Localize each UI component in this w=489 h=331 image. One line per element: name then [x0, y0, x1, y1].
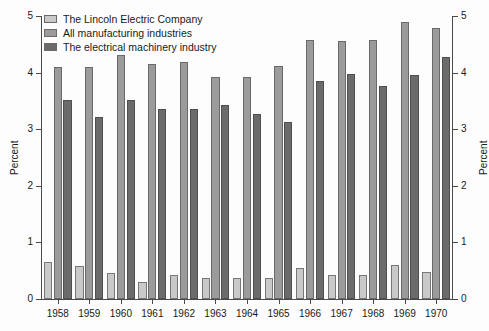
- bar[interactable]: [253, 114, 261, 299]
- bar[interactable]: [170, 275, 178, 299]
- legend-item[interactable]: The electrical machinery industry: [44, 41, 216, 53]
- bar[interactable]: [127, 100, 135, 299]
- right-tick-label: 0: [461, 294, 473, 304]
- bar[interactable]: [95, 117, 103, 299]
- x-tick-mark: [89, 300, 90, 304]
- right-tick-mark: [453, 129, 458, 130]
- legend-label: All manufacturing industries: [63, 28, 192, 39]
- right-tick-mark: [453, 73, 458, 74]
- bar[interactable]: [410, 75, 418, 299]
- x-tick-mark: [310, 300, 311, 304]
- bar[interactable]: [44, 262, 52, 299]
- bar[interactable]: [158, 109, 166, 299]
- bar-group: [75, 16, 103, 299]
- bar[interactable]: [221, 105, 229, 299]
- bar[interactable]: [338, 41, 346, 299]
- bar-group: [422, 16, 450, 299]
- bar[interactable]: [85, 67, 93, 299]
- bar[interactable]: [190, 109, 198, 299]
- left-tick-label: 5: [21, 11, 33, 21]
- bar-group: [391, 16, 419, 299]
- right-tick-label: 3: [461, 124, 473, 134]
- legend-label: The electrical machinery industry: [63, 42, 216, 53]
- legend-swatch-icon: [44, 29, 57, 37]
- right-tick-label: 5: [461, 11, 473, 21]
- bar[interactable]: [107, 273, 115, 299]
- bar-group: [202, 16, 230, 299]
- x-tick-mark: [342, 300, 343, 304]
- bar[interactable]: [202, 278, 210, 300]
- left-tick-mark: [36, 73, 41, 74]
- bar-group: [233, 16, 261, 299]
- bar[interactable]: [328, 275, 336, 299]
- left-tick-label: 2: [21, 181, 33, 191]
- legend-swatch-icon: [44, 15, 57, 23]
- right-tick-mark: [453, 186, 458, 187]
- bar[interactable]: [306, 40, 314, 299]
- bar[interactable]: [75, 266, 83, 299]
- left-tick-label: 1: [21, 237, 33, 247]
- x-tick-mark: [215, 300, 216, 304]
- chart-legend: The Lincoln Electric CompanyAll manufact…: [44, 13, 216, 55]
- left-tick-mark: [36, 129, 41, 130]
- x-tick-mark: [436, 300, 437, 304]
- bar[interactable]: [211, 77, 219, 299]
- bar[interactable]: [359, 275, 367, 299]
- x-tick-mark: [184, 300, 185, 304]
- bar[interactable]: [180, 62, 188, 299]
- bar-group: [107, 16, 135, 299]
- bar[interactable]: [316, 81, 324, 299]
- right-tick-label: 2: [461, 181, 473, 191]
- bar-group: [138, 16, 166, 299]
- x-tick-mark: [58, 300, 59, 304]
- bar-group: [359, 16, 387, 299]
- bar[interactable]: [369, 40, 377, 299]
- x-tick-mark: [279, 300, 280, 304]
- legend-swatch-icon: [44, 43, 57, 51]
- bar[interactable]: [274, 66, 282, 299]
- bar-group: [328, 16, 356, 299]
- bar[interactable]: [401, 22, 409, 299]
- right-axis-title: Percent: [479, 141, 489, 175]
- right-tick-mark: [453, 16, 458, 17]
- bar[interactable]: [422, 272, 430, 299]
- left-tick-label: 0: [21, 294, 33, 304]
- legend-item[interactable]: All manufacturing industries: [44, 27, 216, 39]
- right-tick-mark: [453, 299, 458, 300]
- bar-group: [265, 16, 293, 299]
- bar[interactable]: [63, 100, 71, 299]
- plot-area: [42, 16, 452, 299]
- legend-item[interactable]: The Lincoln Electric Company: [44, 13, 216, 25]
- x-tick-label: 1970: [416, 308, 456, 319]
- bar-chart: 012345 012345 19581959196019611962196319…: [0, 0, 489, 331]
- left-tick-mark: [36, 299, 41, 300]
- bar[interactable]: [138, 282, 146, 299]
- bar[interactable]: [347, 74, 355, 299]
- left-tick-mark: [36, 186, 41, 187]
- right-tick-label: 1: [461, 237, 473, 247]
- x-tick-mark: [152, 300, 153, 304]
- left-tick-mark: [36, 16, 41, 17]
- left-axis-title: Percent: [10, 141, 20, 175]
- bar[interactable]: [432, 28, 440, 299]
- left-tick-mark: [36, 242, 41, 243]
- bar[interactable]: [148, 64, 156, 299]
- bar[interactable]: [379, 86, 387, 299]
- bar-group: [296, 16, 324, 299]
- x-tick-mark: [373, 300, 374, 304]
- bar[interactable]: [296, 268, 304, 299]
- x-tick-mark: [405, 300, 406, 304]
- bar[interactable]: [442, 57, 450, 299]
- bar[interactable]: [243, 77, 251, 299]
- bar[interactable]: [391, 265, 399, 299]
- bar-group: [44, 16, 72, 299]
- x-tick-mark: [121, 300, 122, 304]
- bar[interactable]: [117, 55, 125, 300]
- bar[interactable]: [54, 67, 62, 299]
- right-axis-line: [452, 16, 453, 300]
- bar[interactable]: [265, 278, 273, 300]
- left-tick-label: 4: [21, 68, 33, 78]
- bar[interactable]: [284, 122, 292, 299]
- bar[interactable]: [233, 278, 241, 300]
- bar-group: [170, 16, 198, 299]
